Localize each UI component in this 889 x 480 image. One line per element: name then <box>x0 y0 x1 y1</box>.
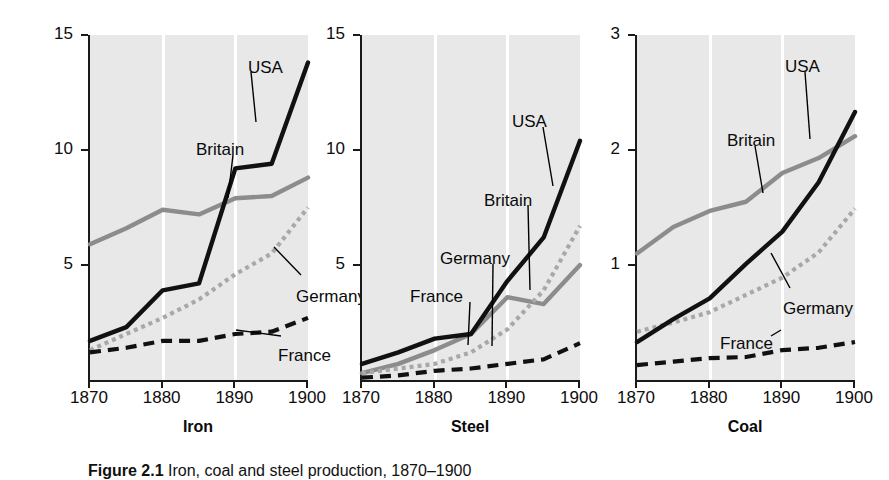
series-label-france: France <box>720 334 773 354</box>
series-line-britain <box>90 178 308 245</box>
y-tick-1 <box>628 264 635 266</box>
y-tick-5 <box>81 264 88 266</box>
series-line-britain <box>637 136 855 253</box>
figure-caption: Figure 2.1 Iron, coal and steel producti… <box>88 462 471 480</box>
y-tick-15 <box>81 34 88 36</box>
y-tick-label-15: 15 <box>18 24 73 44</box>
y-tick-10 <box>81 149 88 151</box>
leader-line-usa <box>543 127 553 186</box>
y-tick-10 <box>353 149 360 151</box>
y-tick-2 <box>628 149 635 151</box>
series-layer <box>635 0 867 474</box>
series-label-usa: USA <box>248 58 283 78</box>
caption-text: Iron, coal and steel production, 1870–19… <box>168 462 471 479</box>
y-tick-label-1: 1 <box>565 254 620 274</box>
y-tick-3 <box>628 34 635 36</box>
leader-line-britain <box>528 205 530 290</box>
y-tick-label-2: 2 <box>565 139 620 159</box>
series-line-france <box>362 343 580 378</box>
series-label-germany: Germany <box>296 287 366 307</box>
y-tick-label-3: 3 <box>565 24 620 44</box>
y-tick-label-10: 10 <box>290 139 345 159</box>
series-layer <box>360 0 592 474</box>
leader-line-usa <box>805 72 810 139</box>
y-tick-label-10: 10 <box>18 139 73 159</box>
y-tick-label-5: 5 <box>290 254 345 274</box>
series-label-france: France <box>410 287 463 307</box>
chart-panel-iron: 151051870188018901900IronUSABritainGerma… <box>88 0 316 474</box>
series-layer <box>88 0 320 474</box>
series-label-germany: Germany <box>440 249 510 269</box>
y-tick-5 <box>353 264 360 266</box>
leader-line-france <box>468 302 470 345</box>
leader-line-usa <box>251 72 256 122</box>
series-label-usa: USA <box>785 57 820 77</box>
chart-panel-coal: 3211870188018901900CoalUSABritainGermany… <box>635 0 863 474</box>
y-tick-15 <box>353 34 360 36</box>
series-label-britain: Britain <box>484 191 532 211</box>
series-label-france: France <box>278 346 331 366</box>
leader-line-britain <box>755 146 763 193</box>
chart-panel-steel: 151051870188018901900SteelUSABritainGerm… <box>360 0 588 474</box>
y-tick-label-15: 15 <box>290 24 345 44</box>
leader-line-germany <box>492 264 493 346</box>
series-label-britain: Britain <box>196 140 244 160</box>
caption-number: Figure 2.1 <box>88 462 164 479</box>
series-label-germany: Germany <box>783 299 853 319</box>
y-tick-label-5: 5 <box>18 254 73 274</box>
series-label-usa: USA <box>512 112 547 132</box>
series-label-britain: Britain <box>727 131 775 151</box>
y-axis-label-wrapper: Millions of metric tons <box>4 30 30 380</box>
